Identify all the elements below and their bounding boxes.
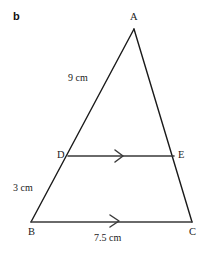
segment-ac	[134, 29, 192, 222]
triangle-diagram	[0, 0, 205, 253]
measure-label-bc: 7.5 cm	[94, 233, 121, 243]
measure-label-db: 3 cm	[13, 183, 33, 193]
vertex-label-c: C	[189, 227, 196, 238]
measure-label-ad: 9 cm	[68, 73, 88, 83]
vertex-label-e: E	[178, 150, 184, 161]
segment-ab	[31, 29, 134, 222]
geometry-figure: b A B C D E 9 cm 3 cm 7.5 cm	[0, 0, 205, 253]
vertex-label-a: A	[130, 12, 138, 23]
figure-part-label: b	[13, 11, 20, 22]
vertex-label-d: D	[57, 150, 65, 161]
parallel-chevron-icon-bc	[110, 215, 119, 227]
vertex-label-b: B	[28, 227, 35, 238]
